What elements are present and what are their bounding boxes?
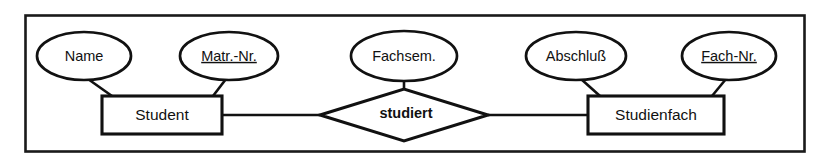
attribute-fachsem-label: Fachsem. bbox=[372, 48, 436, 64]
attribute-name-label: Name bbox=[65, 48, 104, 64]
entity-student-label: Student bbox=[135, 106, 189, 123]
entity-studienfach[interactable]: Studienfach bbox=[588, 96, 724, 134]
attribute-name[interactable]: Name bbox=[37, 32, 131, 80]
er-diagram-figure: Student Studienfach studiert Name Matr.-… bbox=[0, 0, 831, 163]
attribute-abschluss[interactable]: Abschluß bbox=[526, 32, 626, 80]
relationship-studiert-label: studiert bbox=[379, 105, 432, 121]
er-diagram-canvas: Student Studienfach studiert Name Matr.-… bbox=[0, 0, 831, 163]
entity-studienfach-label: Studienfach bbox=[615, 106, 697, 123]
attribute-fach-nr-label: Fach-Nr. bbox=[701, 48, 757, 64]
attribute-matr-nr[interactable]: Matr.-Nr. bbox=[180, 32, 278, 80]
entity-student[interactable]: Student bbox=[102, 96, 222, 134]
attribute-matr-nr-label: Matr.-Nr. bbox=[201, 48, 257, 64]
attribute-fach-nr[interactable]: Fach-Nr. bbox=[682, 32, 776, 80]
attribute-abschluss-label: Abschluß bbox=[546, 48, 607, 64]
attribute-fachsem[interactable]: Fachsem. bbox=[351, 31, 457, 81]
